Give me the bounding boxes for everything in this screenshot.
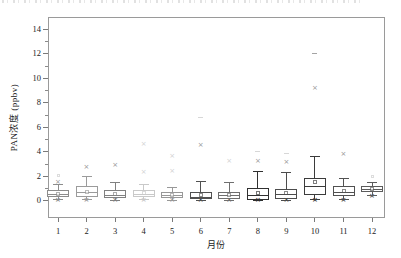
cropped-text-fragments [2, 0, 362, 3]
outlier-x-marker: × [282, 159, 290, 166]
x-tick-label: 12 [362, 226, 382, 236]
min-x-marker: × [225, 197, 233, 204]
whisker-cap-top [167, 187, 177, 188]
min-x-marker: × [340, 197, 348, 204]
y-tick-label: 10 [22, 74, 41, 83]
x-tick [143, 218, 144, 222]
outlier-x-marker: × [140, 141, 148, 148]
x-axis-label: 月份 [196, 238, 236, 250]
outlier-dash-marker [198, 117, 203, 118]
y-minor-tick [45, 139, 48, 140]
y-tick-label: 4 [22, 147, 41, 156]
y-tick-label: 0 [22, 196, 41, 205]
y-tick-label: 2 [22, 172, 41, 181]
outlier-dash-marker [255, 151, 260, 152]
x-tick-label: 1 [48, 226, 68, 236]
outlier-x-marker: × [197, 142, 205, 149]
mean-marker [284, 191, 288, 195]
whisker-cap-top [339, 178, 349, 179]
y-tick-label: 6 [22, 123, 41, 132]
y-minor-tick [45, 188, 48, 189]
y-minor-tick [45, 41, 48, 42]
y-major-tick [43, 176, 48, 177]
mean-marker [142, 191, 146, 195]
outlier-x-marker: × [168, 153, 176, 160]
whisker-cap-top [224, 182, 234, 183]
whisker-cap-top [310, 156, 320, 157]
x-tick [115, 218, 116, 222]
min-x-marker: × [254, 197, 262, 204]
x-tick [58, 218, 59, 222]
x-tick-label: 2 [77, 226, 97, 236]
x-tick [200, 218, 201, 222]
x-tick-label: 3 [105, 226, 125, 236]
whisker-cap-top [281, 172, 291, 173]
x-tick [172, 218, 173, 222]
x-tick [229, 218, 230, 222]
y-minor-tick [45, 66, 48, 67]
whisker-cap-top [139, 184, 149, 185]
boxplot-figure: PAN浓度 (ppbv) 月份 024681012141234567891011… [0, 0, 401, 258]
y-major-tick [43, 53, 48, 54]
min-x-marker: × [311, 197, 319, 204]
y-tick-label: 12 [22, 49, 41, 58]
y-axis-label: PAN浓度 (ppbv) [7, 56, 20, 180]
x-tick-label: 7 [219, 226, 239, 236]
outlier-x-marker: × [254, 158, 262, 165]
outlier-x-marker: × [83, 164, 91, 171]
min-x-marker: × [83, 197, 91, 204]
min-x-marker: × [168, 197, 176, 204]
x-tick [86, 218, 87, 222]
outlier-square-marker [371, 175, 374, 178]
mean-marker [370, 187, 374, 191]
y-major-tick [43, 78, 48, 79]
x-tick [372, 218, 373, 222]
outlier-x-marker: × [225, 158, 233, 165]
y-major-tick [43, 29, 48, 30]
x-tick-label: 6 [191, 226, 211, 236]
outlier-x-marker: × [168, 168, 176, 175]
mean-marker [313, 180, 317, 184]
whisker-cap-top [367, 182, 377, 183]
x-tick [286, 218, 287, 222]
whisker-cap-top [196, 181, 206, 182]
x-tick-label: 8 [248, 226, 268, 236]
outlier-x-marker: × [340, 151, 348, 158]
outlier-dash-marker [284, 153, 289, 154]
y-major-tick [43, 102, 48, 103]
x-tick [257, 218, 258, 222]
min-x-marker: × [282, 197, 290, 204]
outlier-square-marker [57, 174, 60, 177]
y-major-tick [43, 200, 48, 201]
x-tick [314, 218, 315, 222]
y-minor-tick [45, 115, 48, 116]
min-x-marker: × [54, 197, 62, 204]
x-tick [343, 218, 344, 222]
x-tick-label: 11 [334, 226, 354, 236]
outlier-dash-marker [312, 53, 317, 54]
outlier-x-marker: × [111, 162, 119, 169]
mean-marker [256, 191, 260, 195]
y-minor-tick [45, 164, 48, 165]
y-major-tick [43, 151, 48, 152]
x-tick-label: 10 [305, 226, 325, 236]
outlier-x-marker: × [54, 179, 62, 186]
min-x-marker: × [368, 193, 376, 200]
min-x-marker: × [111, 197, 119, 204]
outlier-x-marker: × [140, 169, 148, 176]
x-tick-label: 5 [162, 226, 182, 236]
median-line [305, 186, 325, 187]
y-minor-tick [45, 90, 48, 91]
whisker-cap-top [110, 182, 120, 183]
x-tick-label: 4 [134, 226, 154, 236]
whisker-cap-top [253, 171, 263, 172]
whisker-cap-top [82, 176, 92, 177]
min-x-marker: × [140, 197, 148, 204]
mean-marker [85, 190, 89, 194]
mean-marker [342, 189, 346, 193]
y-major-tick [43, 127, 48, 128]
min-x-marker: × [197, 197, 205, 204]
y-tick-label: 14 [22, 25, 41, 34]
x-tick-label: 9 [276, 226, 296, 236]
y-tick-label: 8 [22, 98, 41, 107]
